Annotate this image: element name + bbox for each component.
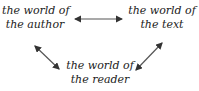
arrow-text-reader	[136, 43, 162, 70]
arrows-layer	[0, 0, 199, 91]
arrow-author-reader	[35, 46, 59, 69]
